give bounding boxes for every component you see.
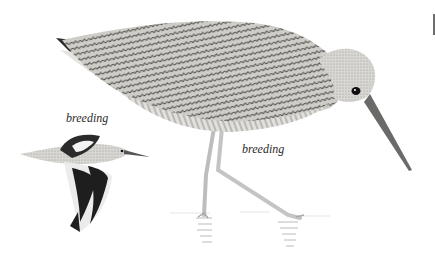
illustration-plate: breeding breeding xyxy=(0,0,435,269)
standing-bird-label: breeding xyxy=(242,142,284,157)
water-ripples xyxy=(170,212,330,246)
flight-bird-label: breeding xyxy=(66,111,108,126)
standing-bird xyxy=(56,21,412,246)
flying-bird xyxy=(20,135,150,232)
bird-illustration xyxy=(0,0,435,269)
